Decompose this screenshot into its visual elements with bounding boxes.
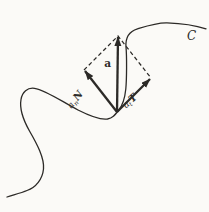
label-acceleration: a xyxy=(104,57,111,69)
label-tangential-component: atT xyxy=(120,90,141,111)
vector-acceleration xyxy=(117,37,118,112)
figure-canvas: a anN atT C xyxy=(0,0,209,212)
vector-diagram: a anN atT C xyxy=(0,0,209,212)
curve-c xyxy=(7,23,206,197)
label-curve-c: C xyxy=(187,29,196,43)
label-normal-component: anN xyxy=(65,88,87,111)
vector-normal-component xyxy=(85,71,117,112)
